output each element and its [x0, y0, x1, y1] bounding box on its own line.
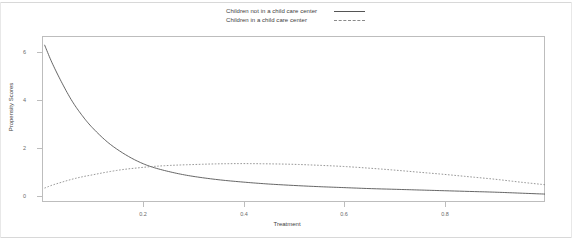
y-tick-label-0: 0: [23, 193, 26, 199]
legend-item-not-in-child-care: Children not in a child care center: [226, 7, 426, 16]
y-tick-label-6: 6: [23, 49, 26, 55]
x-tick-mark-0-2: [143, 202, 144, 207]
y-tick-mark-6: [37, 52, 42, 53]
x-tick-mark-0-6: [344, 202, 345, 207]
curve-children-not-in-child-care: [45, 45, 545, 194]
y-tick-label-2: 2: [23, 145, 26, 151]
legend-line-sample-dotted: [334, 20, 365, 22]
plot-curves: [42, 36, 545, 202]
y-tick-mark-0: [37, 196, 42, 197]
propensity-score-chart: Children not in a child care center Chil…: [0, 0, 574, 241]
chart-legend: Children not in a child care center Chil…: [226, 7, 426, 27]
y-tick-label-4: 4: [23, 97, 26, 103]
legend-label-not-in-child-care: Children not in a child care center: [226, 7, 317, 16]
x-axis-title: Treatment: [0, 221, 574, 227]
legend-item-in-child-care: Children in a child care center: [226, 16, 426, 25]
legend-label-in-child-care: Children in a child care center: [226, 16, 307, 25]
y-axis-title: Propensity Scores: [8, 62, 14, 152]
x-tick-mark-0-4: [244, 202, 245, 207]
y-tick-mark-2: [37, 148, 42, 149]
x-tick-label-0-6: 0.6: [334, 211, 354, 217]
x-tick-label-0-2: 0.2: [133, 211, 153, 217]
curve-children-in-child-care: [45, 164, 545, 188]
x-tick-label-0-8: 0.8: [435, 211, 455, 217]
x-tick-label-0-4: 0.4: [234, 211, 254, 217]
x-tick-mark-0-8: [445, 202, 446, 207]
y-tick-mark-4: [37, 100, 42, 101]
legend-line-sample-solid: [334, 11, 365, 13]
